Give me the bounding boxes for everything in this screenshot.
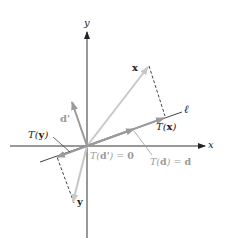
T-d-suffix: ) = xyxy=(167,156,185,167)
T-d-prefix: T( xyxy=(150,156,160,167)
T-d-value: d xyxy=(184,156,191,167)
y-axis-label: y xyxy=(84,18,90,28)
line-l-label: ℓ xyxy=(184,104,189,115)
vector-y-label: y xyxy=(77,197,83,207)
vector-y xyxy=(73,146,87,202)
projection-diagram xyxy=(0,0,225,238)
T-d-prime-value: 0 xyxy=(127,150,134,161)
T-y-prefix: T( xyxy=(28,129,39,140)
leader-T-d xyxy=(134,131,152,155)
vector-T-y-label: T(y) xyxy=(28,130,48,140)
vector-T-y xyxy=(57,146,87,157)
T-x-prefix: T( xyxy=(156,121,167,132)
projection-dashed-x xyxy=(149,66,165,116)
vector-x-label: x xyxy=(132,63,138,73)
T-d-var: d xyxy=(160,156,167,167)
T-d-prime-var: d' xyxy=(100,150,110,161)
T-y-suffix: ) xyxy=(44,129,48,140)
T-x-suffix: ) xyxy=(173,121,177,132)
T-d-prime-prefix: T( xyxy=(90,150,100,161)
vector-d-prime-label: d' xyxy=(60,114,70,124)
T-d-prime-suffix: ) = xyxy=(110,150,128,161)
projection-dashed-y xyxy=(57,157,74,203)
T-d-prime-annotation: T(d') = 0 xyxy=(90,151,134,161)
vector-T-x-label: T(x) xyxy=(156,122,176,132)
T-d-annotation: T(d) = d xyxy=(150,157,191,167)
x-axis-label: x xyxy=(208,140,214,150)
leader-T-y xyxy=(53,137,70,152)
vector-d-prime xyxy=(72,102,87,146)
